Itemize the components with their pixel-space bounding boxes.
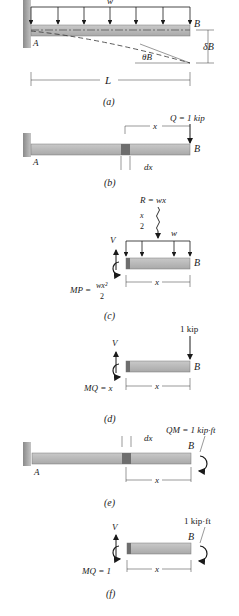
svg-text:B: B <box>194 361 200 372</box>
svg-text:MP =: MP = <box>69 285 91 295</box>
label-l: L <box>104 74 111 86</box>
svg-text:x: x <box>139 211 144 220</box>
fixed-wall <box>23 0 31 48</box>
svg-text:A: A <box>33 467 40 477</box>
svg-text:(f): (f) <box>106 588 116 600</box>
svg-text:x: x <box>154 381 159 391</box>
label-w: w <box>107 0 113 6</box>
svg-text:V: V <box>112 522 119 532</box>
svg-text:1 kip: 1 kip <box>180 324 199 334</box>
beam <box>31 25 190 36</box>
panel-c: R = wx x 2 w B V MP = wx² 2 x (c) <box>69 195 200 322</box>
svg-text:x: x <box>154 564 159 574</box>
label-delta-b: δB <box>203 41 214 52</box>
svg-text:(c): (c) <box>104 310 116 322</box>
svg-text:B: B <box>188 531 194 542</box>
svg-text:MQ = x: MQ = x <box>83 383 113 393</box>
svg-text:B: B <box>194 143 200 154</box>
svg-text:B: B <box>188 440 194 451</box>
svg-text:wx²: wx² <box>96 281 108 290</box>
svg-text:B: B <box>194 257 200 268</box>
svg-text:dx: dx <box>144 433 153 443</box>
svg-text:V: V <box>112 338 119 348</box>
panel-a: w B A δB θB L (a) <box>23 0 214 108</box>
panel-f: 1 kip·ft V B MQ = 1 x (f) <box>81 516 211 600</box>
svg-text:w: w <box>171 228 177 238</box>
svg-text:A: A <box>32 157 39 167</box>
distributed-load-arrows <box>31 7 190 24</box>
svg-text:(d): (d) <box>104 413 116 425</box>
caption-a: (a) <box>103 96 115 108</box>
label-theta-b: θB <box>142 52 152 62</box>
svg-text:(e): (e) <box>104 497 116 509</box>
panel-b: Q = 1 kip x B A dx (b) <box>23 113 205 189</box>
label-b: B <box>194 18 200 29</box>
panel-d: 1 kip B V MQ = x x (d) <box>83 324 200 425</box>
svg-text:(b): (b) <box>104 177 116 189</box>
svg-text:QM = 1 kip·ft: QM = 1 kip·ft <box>166 425 216 435</box>
svg-text:MQ = 1: MQ = 1 <box>81 566 111 576</box>
panel-e: QM = 1 kip·ft dx B A x (e) <box>23 425 216 509</box>
label-x: x <box>152 121 157 131</box>
label-a: A <box>32 38 39 48</box>
svg-text:x: x <box>154 277 159 287</box>
svg-text:1 kip·ft: 1 kip·ft <box>184 516 211 526</box>
svg-text:V: V <box>110 235 117 245</box>
label-q: Q = 1 kip <box>170 113 205 123</box>
svg-text:dx: dx <box>144 162 153 172</box>
svg-text:x: x <box>154 475 159 485</box>
svg-text:2: 2 <box>100 292 104 301</box>
svg-text:2: 2 <box>140 222 144 231</box>
svg-text:R = wx: R = wx <box>139 195 166 205</box>
cantilever-virtual-work-figure: w B A δB θB L (a) Q = 1 kip x B A dx (b)… <box>0 0 239 616</box>
